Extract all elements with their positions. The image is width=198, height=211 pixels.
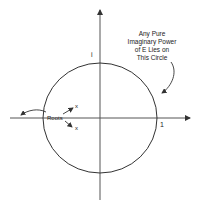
label-x-upper: x [75, 103, 78, 109]
label-one: 1 [160, 121, 164, 128]
roots-arrow-lower [65, 121, 72, 127]
label-roots: Roots [47, 115, 63, 121]
label-x-lower: x [75, 125, 78, 131]
annotation-line-1: Any Pure [139, 30, 166, 38]
roots-arrow-upper [63, 108, 73, 114]
annotation-arrow [162, 62, 174, 93]
roots-arrow-left [21, 110, 46, 115]
annotation-line-3: of E Lies on [135, 46, 170, 53]
label-i: i [91, 51, 93, 58]
complex-plane-diagram: i 1 Roots x x Any Pure Imaginary Power o… [0, 0, 198, 211]
annotation-line-2: Imaginary Power [128, 38, 178, 46]
annotation-line-4: This Circle [137, 54, 168, 61]
